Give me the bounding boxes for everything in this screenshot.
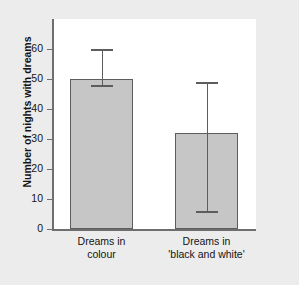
- x-axis-label-line: 'black and white': [137, 248, 277, 261]
- y-tick-mark: [47, 79, 53, 80]
- y-tick-mark: [47, 49, 53, 50]
- y-tick-label: 0: [0, 223, 43, 234]
- x-axis-label-line: Dreams in: [137, 235, 277, 248]
- x-axis-category-label: Dreams in'black and white': [137, 235, 277, 260]
- error-bar-cap-upper: [91, 49, 113, 51]
- bar: [70, 79, 133, 229]
- error-bar-stem: [207, 82, 208, 211]
- error-bar-cap-upper: [196, 82, 218, 84]
- y-axis-tick: 0: [0, 229, 53, 230]
- x-axis-line: [52, 229, 256, 231]
- y-tick-mark: [47, 199, 53, 200]
- error-bar-cap-lower: [91, 85, 113, 87]
- figure-container: 0102030405060 Number of nights with drea…: [0, 0, 299, 285]
- y-tick-mark: [47, 139, 53, 140]
- error-bar-cap-lower: [196, 211, 218, 213]
- error-bar-stem: [102, 49, 103, 85]
- y-tick-mark: [47, 229, 53, 230]
- y-tick-mark: [47, 169, 53, 170]
- y-tick-mark: [47, 109, 53, 110]
- y-axis-title: Number of nights with dreams: [21, 12, 33, 212]
